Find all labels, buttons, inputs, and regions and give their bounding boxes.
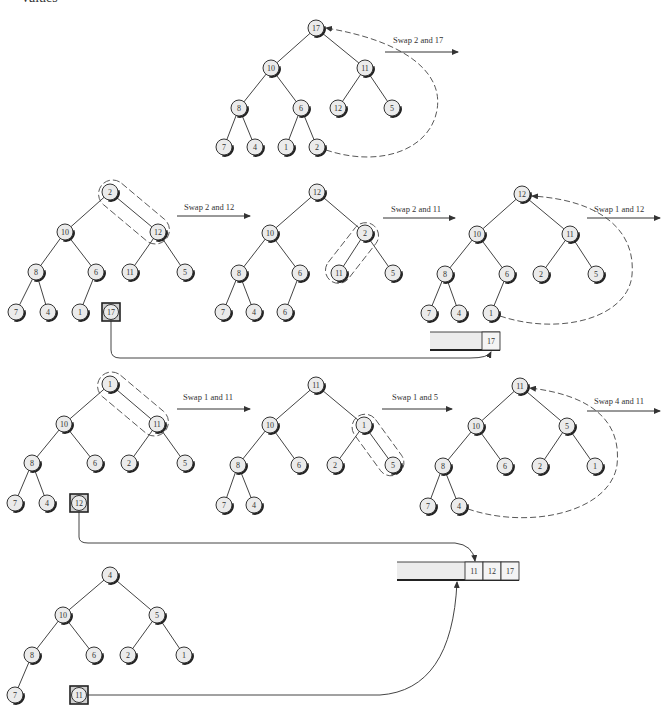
heap-node: 7 <box>216 139 233 156</box>
heap-node: 5 <box>559 418 576 435</box>
node-value: 1 <box>284 143 288 152</box>
node-value: 6 <box>503 462 507 471</box>
heap-node: 2 <box>309 139 326 156</box>
node-value: 10 <box>267 64 275 73</box>
heap-node: 1 <box>587 458 604 475</box>
heap-node: 8 <box>28 264 45 281</box>
heap-node: 6 <box>497 458 514 475</box>
node-value: 11 <box>361 64 369 73</box>
node-value: 4 <box>253 143 257 152</box>
heap-node: 5 <box>385 457 402 474</box>
heap-node: 6 <box>293 100 310 117</box>
node-value: 17 <box>312 24 320 33</box>
node-value: 7 <box>14 308 18 317</box>
heap-node: 6 <box>87 455 104 472</box>
node-value: 7 <box>222 501 226 510</box>
node-value: 12 <box>75 499 83 508</box>
heap-node: 2 <box>121 455 138 472</box>
node-value: 11 <box>516 382 524 391</box>
heap-node: 5 <box>177 455 194 472</box>
node-value: 8 <box>441 462 445 471</box>
node-value: 10 <box>59 611 67 620</box>
heap-node: 7 <box>216 497 233 514</box>
heap-node: 11 <box>512 378 529 395</box>
tree-edge <box>476 386 520 426</box>
swap-step-arrow: Swap 2 and 11 <box>383 204 455 218</box>
heap-node: 10 <box>263 60 280 77</box>
heap-node: 11 <box>149 416 166 433</box>
heap-node: 5 <box>177 264 194 281</box>
node-value: 8 <box>236 461 240 470</box>
node-value: 8 <box>30 651 34 660</box>
heap-node: 5 <box>385 265 402 282</box>
swap-step-arrow: Swap 1 and 5 <box>382 392 452 409</box>
node-value: 4 <box>252 308 256 317</box>
node-value: 6 <box>298 269 302 278</box>
heap-node: 5 <box>149 607 166 624</box>
heap-node: 10 <box>57 224 74 241</box>
node-value: 5 <box>391 269 395 278</box>
heap-node: 2 <box>102 184 119 201</box>
node-value: 2 <box>363 229 367 238</box>
node-value: 2 <box>333 461 337 470</box>
removed-max-node: 12 <box>70 494 88 512</box>
heap-node: 11 <box>308 377 325 394</box>
heap-node: 10 <box>55 607 72 624</box>
heap-node: 12 <box>150 224 167 241</box>
node-value: 11 <box>153 420 161 429</box>
node-value: 4 <box>252 501 256 510</box>
heap-node: 1 <box>356 417 373 434</box>
heap-node: 1 <box>176 647 193 664</box>
swap-step-arrow: Swap 1 and 11 <box>177 392 250 409</box>
node-value: 4 <box>457 309 461 318</box>
node-value: 8 <box>30 459 34 468</box>
swap-label: Swap 2 and 17 <box>393 35 443 45</box>
heap-node: 7 <box>421 305 438 322</box>
heap-node: 1 <box>72 304 89 321</box>
node-value: 7 <box>426 502 430 511</box>
sorted-array-arr2: 111217 <box>397 562 519 580</box>
node-value: 6 <box>92 651 96 660</box>
node-value: 2 <box>538 462 542 471</box>
heap-node: 8 <box>230 457 247 474</box>
node-value: 8 <box>237 269 241 278</box>
compare-highlights <box>92 174 409 481</box>
tree-edge <box>65 192 110 232</box>
array-cell-value: 17 <box>487 337 495 346</box>
node-value: 4 <box>108 571 112 580</box>
heap-node: 12 <box>514 186 531 203</box>
node-value: 12 <box>334 104 342 113</box>
node-value: 7 <box>221 308 225 317</box>
heap-node: 4 <box>39 495 56 512</box>
heap-node: 4 <box>246 304 263 321</box>
heap-node: 7 <box>7 495 24 512</box>
removed-max-node: 11 <box>70 686 88 704</box>
heap-node: 12 <box>330 100 347 117</box>
heap-node: 4 <box>102 567 119 584</box>
swap-label: Swap 1 and 5 <box>392 392 438 402</box>
array-cell-value: 12 <box>488 567 496 576</box>
node-value: 17 <box>107 308 115 317</box>
heap-node: 8 <box>435 458 452 475</box>
node-value: 11 <box>335 269 343 278</box>
tree-edge <box>270 192 317 233</box>
heap-tree-t5: 1101186257412 <box>7 376 194 512</box>
heap-node: 8 <box>24 647 41 664</box>
node-value: 2 <box>127 459 131 468</box>
node-value: 11 <box>126 268 134 277</box>
swap-label: Swap 2 and 12 <box>184 202 234 212</box>
node-value: 10 <box>473 230 481 239</box>
heap-node: 1 <box>102 376 119 393</box>
node-value: 5 <box>183 268 187 277</box>
node-value: 12 <box>313 188 321 197</box>
tree-edge <box>63 575 110 615</box>
node-value: 11 <box>566 230 574 239</box>
heap-node: 2 <box>532 458 549 475</box>
swap-label: Swap 1 and 12 <box>594 204 644 214</box>
heap-tree-t8: 41058621711 <box>7 567 193 704</box>
heap-node: 6 <box>277 304 294 321</box>
node-value: 7 <box>427 309 431 318</box>
heap-node: 6 <box>499 266 516 283</box>
node-value: 2 <box>315 143 319 152</box>
node-value: 6 <box>505 270 509 279</box>
